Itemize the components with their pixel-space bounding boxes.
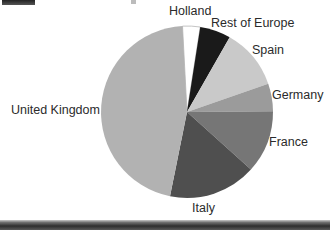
slice-label-italy: Italy xyxy=(192,202,215,215)
slice-label-spain: Spain xyxy=(252,44,284,57)
slice-label-holland: Holland xyxy=(169,5,211,18)
slice-label-united-kingdom: United Kingdom xyxy=(11,104,100,117)
slice-label-rest-of-europe: Rest of Europe xyxy=(211,17,294,30)
pie-slice-united-kingdom xyxy=(101,26,187,196)
slice-label-germany: Germany xyxy=(272,89,323,102)
bottom-divider-bar xyxy=(0,220,330,230)
slice-label-france: France xyxy=(269,136,308,149)
slide-canvas: Holland Rest of Europe Spain Germany Fra… xyxy=(0,0,330,231)
